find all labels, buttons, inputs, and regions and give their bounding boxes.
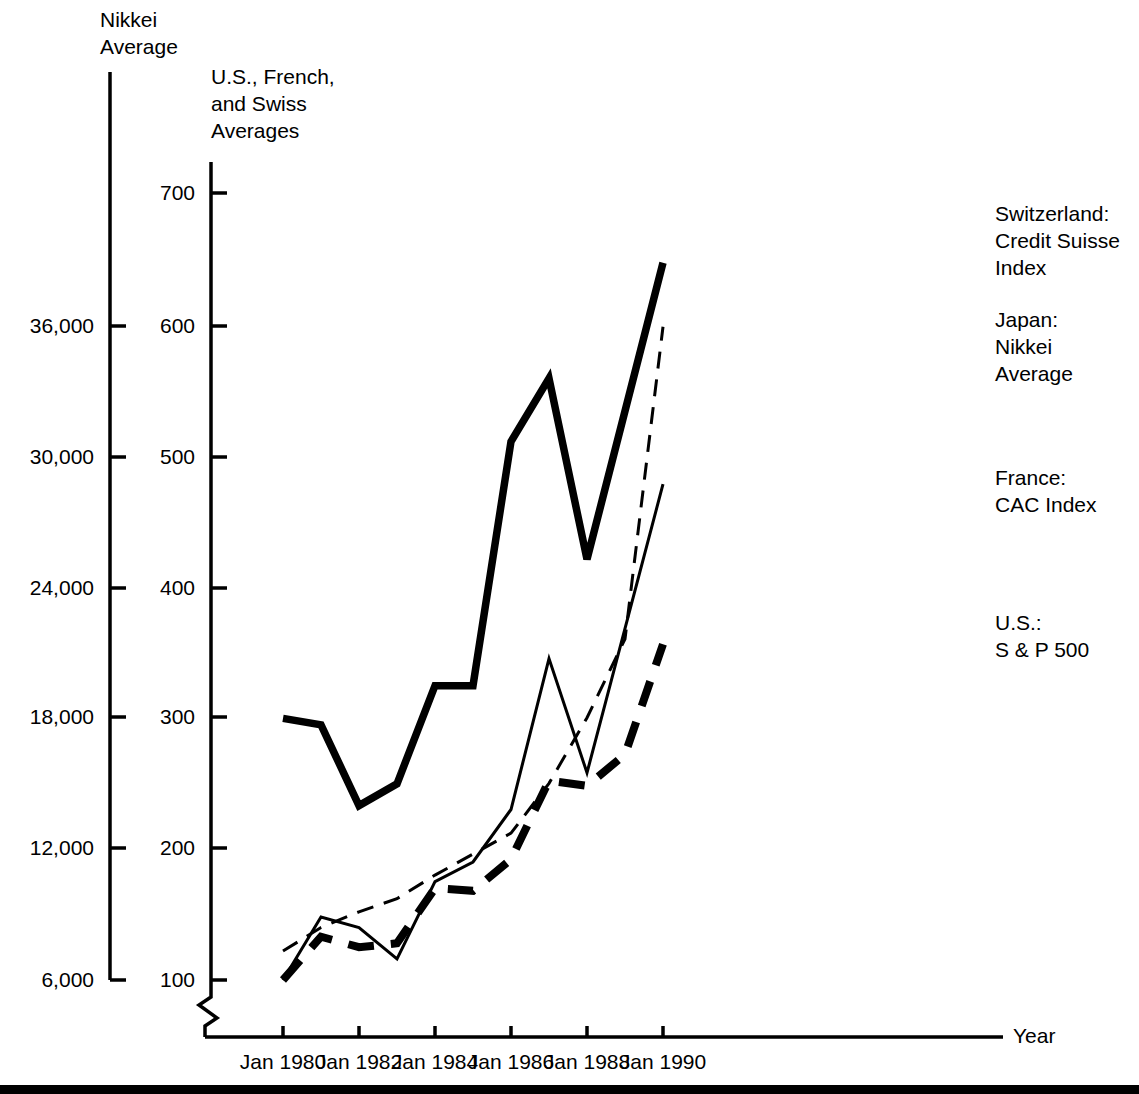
series-label-france: France: CAC Index bbox=[995, 464, 1097, 518]
inner-axis-title: U.S., French, and Swiss Averages bbox=[211, 63, 335, 144]
inner-tick-label-400: 400 bbox=[110, 576, 195, 600]
left-tick-label-18000: 18,000 bbox=[0, 705, 94, 729]
inner-tick-label-700: 700 bbox=[110, 181, 195, 205]
inner-tick-label-200: 200 bbox=[110, 836, 195, 860]
left-axis-title: Nikkei Average bbox=[100, 6, 178, 60]
left-tick-label-6000: 6,000 bbox=[0, 968, 94, 992]
left-tick-label-12000: 12,000 bbox=[0, 836, 94, 860]
x-axis-name: Year bbox=[1013, 1024, 1055, 1048]
inner-axis-ticks bbox=[211, 193, 227, 980]
left-tick-label-36000: 36,000 bbox=[0, 314, 94, 338]
series-line-france bbox=[283, 484, 663, 980]
series-label-us: U.S.: S & P 500 bbox=[995, 609, 1089, 663]
x-tick-label-jan-1990: Jan 1990 bbox=[583, 1050, 743, 1074]
left-axis-ticks bbox=[110, 326, 126, 980]
inner-tick-label-500: 500 bbox=[110, 445, 195, 469]
chart-page: Nikkei Average U.S., French, and Swiss A… bbox=[0, 0, 1139, 1094]
left-tick-label-30000: 30,000 bbox=[0, 445, 94, 469]
inner-tick-label-300: 300 bbox=[110, 705, 195, 729]
series-label-switzerland: Switzerland: Credit Suisse Index bbox=[995, 200, 1120, 281]
axis-break-symbol bbox=[199, 980, 217, 1037]
inner-tick-label-600: 600 bbox=[110, 314, 195, 338]
series-line-us-sp500 bbox=[283, 644, 663, 980]
bottom-rule bbox=[0, 1085, 1139, 1094]
inner-tick-label-100: 100 bbox=[110, 968, 195, 992]
series-line-japan-nikkei bbox=[283, 263, 663, 806]
series-line-switzerland bbox=[283, 327, 663, 951]
chart-canvas bbox=[0, 0, 1139, 1094]
series-label-japan: Japan: Nikkei Average bbox=[995, 306, 1073, 387]
left-tick-label-24000: 24,000 bbox=[0, 576, 94, 600]
